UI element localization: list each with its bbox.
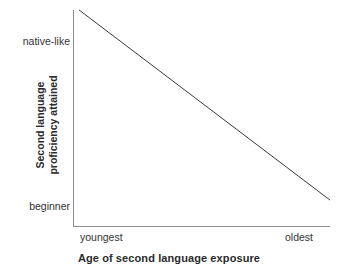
x-tick-label-youngest: youngest [80, 231, 123, 243]
x-axis-title: Age of second language exposure [0, 252, 338, 264]
y-axis-title-line-2: proficiency attained [47, 60, 177, 190]
chart-container: native-like beginner youngest oldest Sec… [0, 0, 338, 276]
y-axis-title: Second language proficiency attained [34, 60, 60, 190]
y-tick-label-native-like: native-like [0, 35, 70, 47]
y-tick-label-beginner: beginner [0, 200, 70, 212]
x-tick-label-oldest: oldest [285, 231, 313, 243]
